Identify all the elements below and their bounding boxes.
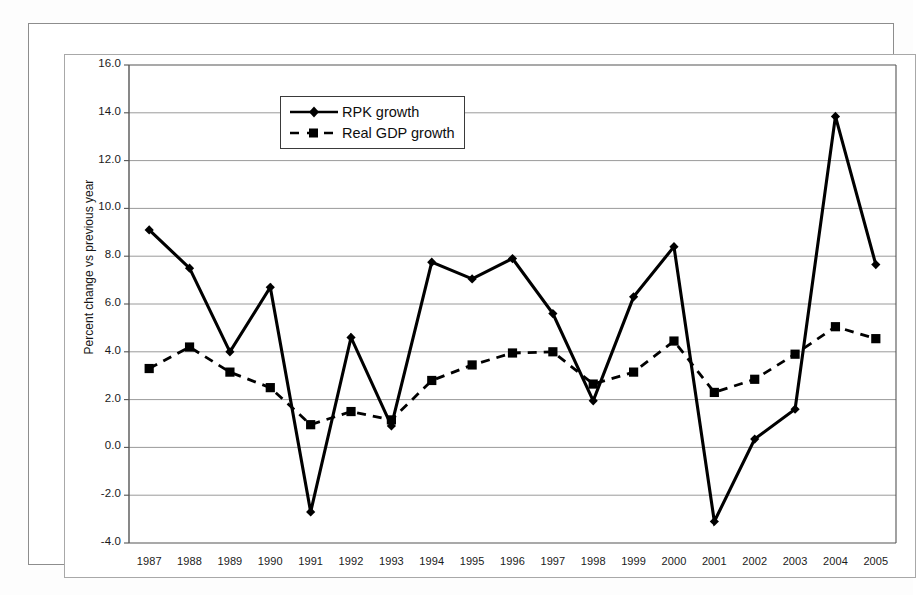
y-tick-label: 4.0 <box>79 344 121 356</box>
chart-frame: Percent change vs previous year 16.014.0… <box>64 54 916 578</box>
data-point-marker <box>427 258 436 267</box>
legend-label-rpk-growth: RPK growth <box>340 104 419 120</box>
data-point-marker <box>589 396 598 405</box>
data-point-marker <box>468 360 477 369</box>
data-point-marker <box>871 334 880 343</box>
outer-image-frame: Percent change vs previous year 16.014.0… <box>28 23 894 565</box>
y-tick-label: 10.0 <box>79 200 121 212</box>
data-point-marker <box>306 420 315 429</box>
data-point-marker <box>548 347 557 356</box>
series-line-rpk-growth <box>149 116 876 521</box>
y-tick-label: 8.0 <box>79 248 121 260</box>
legend-entry-rpk-growth: RPK growth <box>288 101 455 122</box>
data-point-marker <box>306 507 315 516</box>
legend-entry-real-gdp-growth: Real GDP growth <box>288 122 455 143</box>
plot-area <box>65 55 915 577</box>
series-line-real-gdp-growth <box>149 327 876 425</box>
y-tick-label: 0.0 <box>79 439 121 451</box>
data-point-marker <box>266 383 275 392</box>
data-point-marker <box>629 368 638 377</box>
legend-label-real-gdp-growth: Real GDP growth <box>340 125 455 141</box>
data-point-marker <box>145 364 154 373</box>
data-point-marker <box>185 342 194 351</box>
data-point-marker <box>225 368 234 377</box>
data-point-marker <box>589 379 598 388</box>
y-tick-label: 12.0 <box>79 153 121 165</box>
data-point-marker <box>831 322 840 331</box>
x-tick-label: 2005 <box>852 555 900 567</box>
y-tick-label: -4.0 <box>79 535 121 547</box>
chart-legend: RPK growth Real GDP growth <box>280 96 465 149</box>
data-point-marker <box>387 415 396 424</box>
data-point-marker <box>871 260 880 269</box>
y-tick-label: 14.0 <box>79 105 121 117</box>
data-point-marker <box>427 376 436 385</box>
data-point-marker <box>508 348 517 357</box>
data-point-marker <box>346 333 355 342</box>
y-tick-label: 2.0 <box>79 392 121 404</box>
y-tick-label: 16.0 <box>79 57 121 69</box>
data-point-marker <box>710 388 719 397</box>
y-tick-label: 6.0 <box>79 296 121 308</box>
data-point-marker <box>346 407 355 416</box>
legend-key-solid-diamond-icon <box>288 104 340 120</box>
legend-key-dashed-square-icon <box>288 125 340 141</box>
data-point-marker <box>669 336 678 345</box>
y-tick-label: -2.0 <box>79 487 121 499</box>
data-point-marker <box>750 375 759 384</box>
data-point-marker <box>790 350 799 359</box>
